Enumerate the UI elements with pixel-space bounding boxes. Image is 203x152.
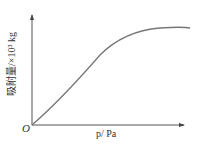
adsorption-curve bbox=[32, 27, 190, 125]
y-axis-label-text: 吸附量/×10³ kg bbox=[3, 32, 18, 96]
x-axis-label: p/ Pa bbox=[96, 128, 116, 139]
y-axis-label: 吸附量/×10³ kg bbox=[2, 20, 18, 108]
origin-label: O bbox=[22, 122, 30, 134]
